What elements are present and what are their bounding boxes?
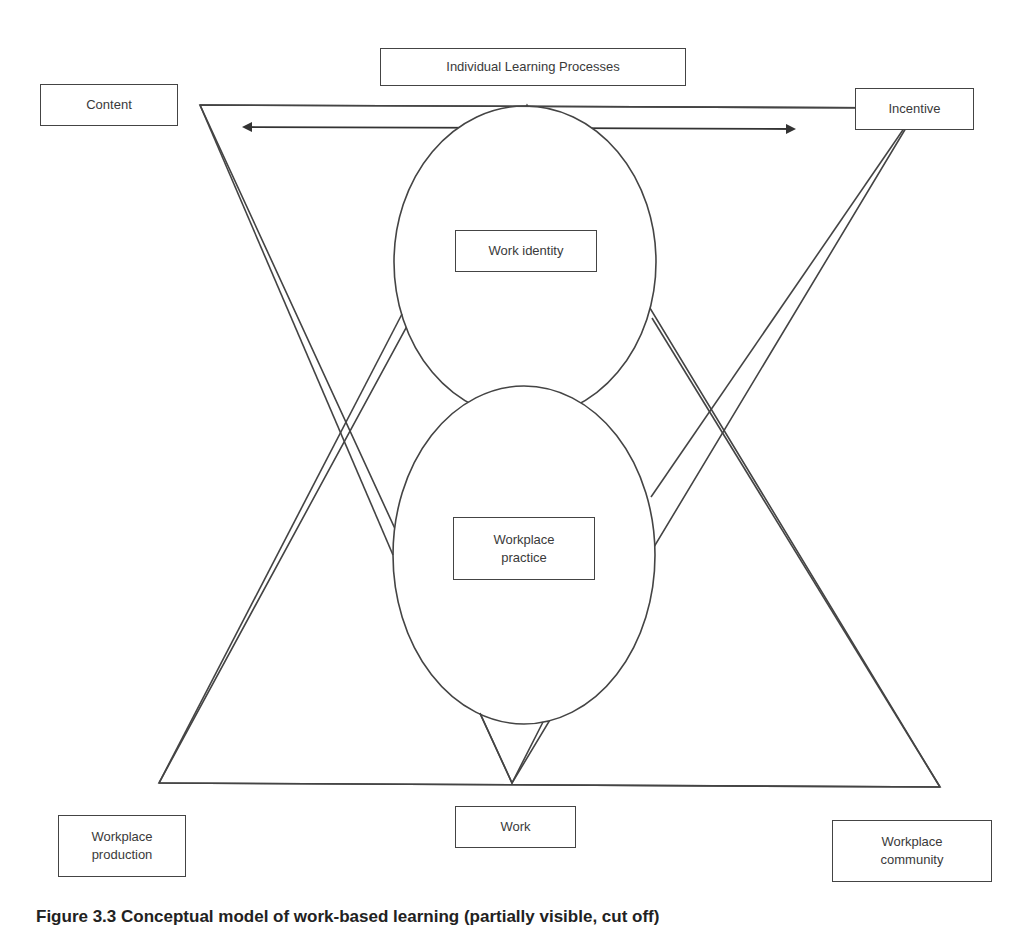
label-incentive: Incentive	[855, 88, 974, 130]
label-workplace-community: Workplace community	[832, 820, 992, 882]
label-content: Content	[40, 84, 178, 126]
figure-caption: Figure 3.3 Conceptual model of work-base…	[36, 907, 659, 927]
label-work: Work	[455, 806, 576, 848]
label-workplace-practice: Workplace practice	[453, 517, 595, 580]
label-individual-learning-processes: Individual Learning Processes	[380, 48, 686, 86]
label-work-identity: Work identity	[455, 230, 597, 272]
label-workplace-production: Workplace production	[58, 815, 186, 877]
